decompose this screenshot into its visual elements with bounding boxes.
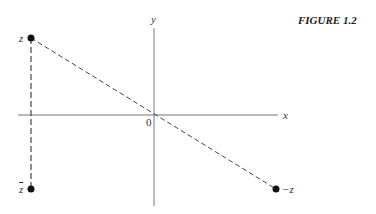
origin-label: 0 xyxy=(146,117,152,128)
point-z-label: z xyxy=(19,33,23,44)
point-z xyxy=(28,35,35,42)
point-negative-z xyxy=(273,186,280,193)
x-axis-label: x xyxy=(283,110,288,121)
point-z-conjugate xyxy=(28,186,35,193)
point-z-conjugate-label: z xyxy=(19,184,23,195)
point-negative-z-label: −z xyxy=(282,184,294,195)
y-axis-label: y xyxy=(151,14,156,25)
figure-label: FIGURE 1.2 xyxy=(298,14,357,26)
diagram-canvas xyxy=(0,0,376,214)
